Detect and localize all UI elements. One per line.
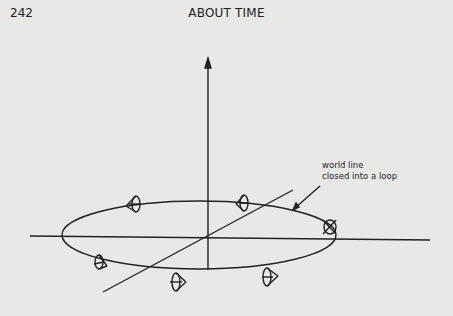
annotation-line-1: world line [322, 160, 397, 171]
spacetime-diagram [0, 0, 453, 316]
annotation-pointer [295, 186, 320, 208]
light-cone-icon [94, 255, 107, 269]
light-cone-icon [236, 195, 248, 211]
arrow-head-icon [205, 58, 211, 68]
light-cone-icon [323, 220, 336, 234]
light-cone-icon [262, 268, 278, 286]
annotation-line-2: closed into a loop [322, 171, 397, 182]
annotation-label: world line closed into a loop [322, 160, 397, 182]
horizontal-axis [30, 236, 430, 240]
light-cone-icon [126, 196, 140, 212]
light-cone-icon [170, 273, 186, 291]
